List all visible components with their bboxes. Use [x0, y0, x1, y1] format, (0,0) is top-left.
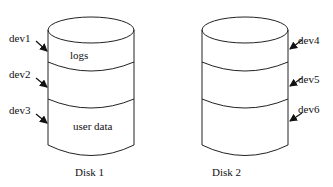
disk-1-top — [48, 17, 134, 43]
disk-1-bottom — [48, 145, 134, 156]
disk-2-bottom — [202, 145, 288, 156]
disk-diagram: logs user data Disk 1 dev1 dev2 dev3 Dis… — [0, 0, 333, 187]
disk-2-divider-1 — [202, 62, 288, 71]
disk-1-divider-1 — [48, 62, 134, 71]
dev1-label: dev1 — [9, 32, 30, 44]
disk-1: logs user data Disk 1 dev1 dev2 dev3 — [9, 17, 134, 178]
dev2-arrow-icon — [36, 78, 47, 87]
partition-dev3-content: user data — [73, 120, 113, 132]
dev6-arrow-icon — [290, 113, 302, 121]
disk-2-top — [202, 17, 288, 43]
dev3-arrow-icon — [36, 114, 47, 123]
dev1-arrow-icon — [36, 41, 47, 51]
dev2-label: dev2 — [9, 68, 30, 80]
disk-2: Disk 2 dev4 dev5 dev6 — [202, 17, 320, 178]
disk-2-divider-2 — [202, 99, 288, 108]
dev3-label: dev3 — [9, 104, 31, 116]
disk-2-label: Disk 2 — [212, 166, 241, 178]
disk-1-divider-2 — [48, 99, 134, 108]
disk-1-label: Disk 1 — [75, 166, 104, 178]
partition-dev1-content: logs — [70, 49, 88, 61]
